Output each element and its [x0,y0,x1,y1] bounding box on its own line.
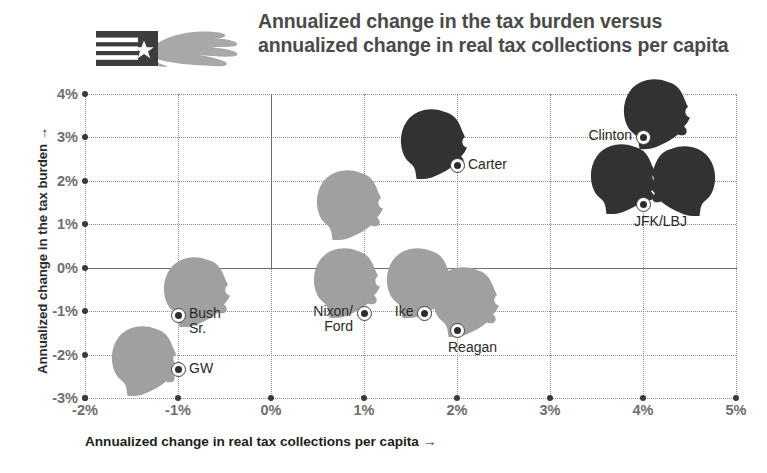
x-tick-dot [547,395,553,401]
page-title: Annualized change in the tax burden vers… [258,10,758,58]
gridline-vertical [736,94,737,398]
president-silhouette [645,145,719,217]
x-tick-dot [82,395,88,401]
data-point-label: Ike [395,304,414,318]
x-tick-label: 3% [520,402,580,418]
x-tick-dot [454,395,460,401]
y-tick-dot [82,91,88,97]
data-point-marker[interactable] [357,306,372,321]
president-silhouette [108,325,182,397]
data-point-marker[interactable] [450,158,465,173]
data-point-label: Carter [468,157,507,171]
president-silhouette [429,266,503,338]
logo-svg [88,18,248,78]
data-point-label: Nixon/ Ford [313,304,353,333]
data-point-marker[interactable] [636,130,651,145]
president-silhouette [313,169,387,241]
x-tick-label: 5% [706,402,766,418]
data-point-label: Reagan [448,340,497,354]
x-tick-dot [361,395,367,401]
x-tick-dot [268,395,274,401]
x-tick-dot [733,395,739,401]
x-tick-dot [640,395,646,401]
data-point-label: GW [189,361,213,375]
data-point-marker[interactable] [417,306,432,321]
plot-area: GWBush Sr.Nixon/ FordIkeReaganCarterClin… [85,94,736,398]
gridline-horizontal [85,355,736,356]
y-tick-dot [82,265,88,271]
gridline-vertical [550,94,551,398]
gridline-horizontal [85,398,736,399]
data-point-marker[interactable] [450,323,465,338]
zero-line-vertical [271,94,272,268]
data-point-marker[interactable] [636,197,651,212]
x-tick-label: 0% [241,402,301,418]
y-tick-dot [82,134,88,140]
x-axis-tick-labels: -2%-1%0%1%2%3%4%5% [85,402,736,424]
y-tick-dot [82,221,88,227]
x-axis-title: Annualized change in real tax collection… [85,434,436,449]
x-tick-label: 1% [334,402,394,418]
x-tick-label: -1% [148,402,208,418]
x-tick-label: 4% [613,402,673,418]
data-point-label: Bush Sr. [189,306,221,335]
data-point-marker[interactable] [171,308,186,323]
x-tick-label: -2% [55,402,115,418]
hand-icon [145,32,237,67]
data-point-marker[interactable] [171,362,186,377]
chart-page: Annualized change in the tax burden vers… [0,0,767,473]
y-tick-dot [82,308,88,314]
y-tick-dot [82,352,88,358]
y-tick-dot [82,178,88,184]
flag-icon [96,31,158,66]
data-point-label: JFK/LBJ [634,214,687,228]
y-tick-label: 4% [38,86,78,102]
data-point-label: Clinton [588,128,632,142]
flag-and-hand-logo [88,18,248,78]
y-axis-title: Annualized change in the tax burden → [35,106,50,396]
x-tick-label: 2% [427,402,487,418]
